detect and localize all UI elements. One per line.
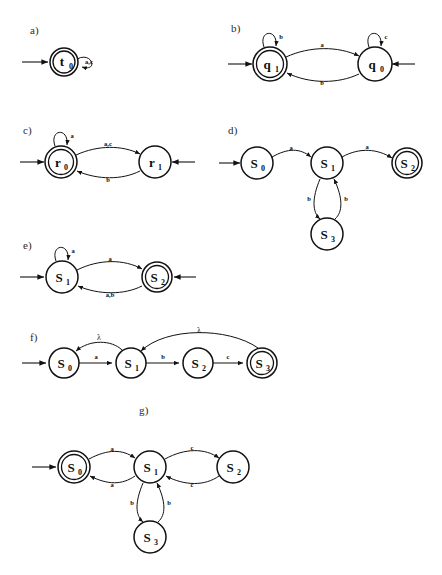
- panel-e: S 1 S 2 a a a,b: [20, 247, 196, 298]
- edge-e-s1-s2: [77, 262, 142, 270]
- state-g-s2-sub: 2: [237, 468, 241, 477]
- figure-sheet: t 0 a,c q 1 q 0 b c a b: [0, 0, 442, 575]
- edge-f-s1-s0-label: λ: [97, 333, 101, 342]
- edge-d-s0-s1-label: a: [289, 144, 293, 151]
- state-r0-label: r: [55, 155, 61, 170]
- edge-e-s1-s2-label: a: [108, 255, 112, 262]
- state-d-s0-label: S: [250, 156, 257, 171]
- state-g-s0-sub: 0: [78, 468, 82, 477]
- state-f-s0-sub: 0: [68, 364, 72, 373]
- edge-q0-q1-label: b: [320, 79, 324, 86]
- state-r1-outer: [139, 146, 171, 178]
- state-f-s0-label: S: [57, 356, 64, 371]
- self-loop-e-s1: [55, 247, 68, 261]
- state-d-s0-sub: 0: [261, 164, 265, 173]
- state-t0-label: t: [60, 54, 65, 69]
- state-e-s2-sub: 2: [161, 278, 165, 287]
- edge-g-s0-s1: [89, 451, 135, 459]
- self-loop-r0-label: a: [70, 132, 74, 139]
- panel-label-e: e): [23, 239, 32, 251]
- state-g-s1-label: S: [143, 460, 150, 475]
- edge-r0-r1: [76, 147, 140, 155]
- edge-d-s1-s3-label: b: [307, 195, 311, 202]
- state-f-s1-sub: 1: [135, 364, 139, 373]
- panel-label-g: g): [139, 404, 149, 416]
- edge-d-s1-s2: [342, 150, 392, 158]
- panel-label-b: b): [231, 22, 241, 34]
- edge-d-s1-s3: [314, 179, 320, 219]
- panel-label-f: f): [30, 331, 38, 343]
- edge-g-s1-s2: [165, 451, 219, 459]
- edge-g-s1-s3: [137, 483, 143, 522]
- state-d-s1-sub: 1: [331, 164, 335, 173]
- self-loop-r0: [54, 132, 67, 146]
- edge-f-s0-s1-label: a: [94, 353, 98, 360]
- state-q0-label: q: [368, 57, 376, 72]
- state-g-s2-label: S: [226, 460, 233, 475]
- panel-f: S 0 S 1 S 2 S 3 a b c λ λ: [22, 326, 277, 378]
- edge-f-s3-s1-label: λ: [197, 326, 201, 335]
- state-q0-sub: 0: [380, 65, 384, 74]
- panel-d: S 0 S 1 S 2 S 3 a a b b: [219, 143, 422, 250]
- state-d-s1-label: S: [320, 156, 327, 171]
- panel-b: q 1 q 0 b c a b: [228, 33, 415, 86]
- panel-a: t 0 a,c: [22, 48, 93, 76]
- edge-f-s1-s2-label: b: [161, 353, 165, 360]
- state-r1-label: r: [149, 155, 155, 170]
- edge-d-s1-s2-label: a: [365, 143, 369, 150]
- edge-r1-r0-label: b: [106, 176, 110, 183]
- edge-g-s3-s1: [157, 483, 164, 522]
- edge-g-s3-s1-label: b: [167, 499, 171, 506]
- state-f-s3-label: S: [255, 356, 262, 371]
- self-loop-q1-label: b: [279, 33, 283, 40]
- self-loop-e-s1-label: a: [71, 247, 75, 254]
- state-r0-sub: 0: [64, 163, 68, 172]
- self-loop-q1: [263, 33, 276, 47]
- state-d-s2-sub: 2: [411, 164, 415, 173]
- edge-g-s1-s2-label: c: [191, 444, 194, 451]
- edge-q1-q0-label: a: [320, 41, 324, 48]
- state-d-s3-sub: 3: [331, 235, 335, 244]
- self-loop-q0: [368, 33, 381, 47]
- state-q1-label: q: [263, 57, 271, 72]
- state-g-s0-label: S: [67, 460, 74, 475]
- edge-g-s2-s1-label: c: [191, 481, 194, 488]
- state-f-s3-sub: 3: [266, 364, 270, 373]
- panel-c: r 0 r 1 a a,c b: [20, 132, 195, 183]
- state-e-s1-label: S: [55, 270, 62, 285]
- state-f-s2-label: S: [191, 356, 198, 371]
- state-r1-sub: 1: [158, 163, 162, 172]
- edge-f-s1-s0-lambda: [76, 342, 122, 351]
- panel-label-c: c): [23, 124, 32, 136]
- edge-q1-q0: [286, 49, 359, 57]
- state-t0-sub: 0: [69, 62, 73, 71]
- state-d-s3-label: S: [320, 227, 327, 242]
- edge-d-s3-s1-label: b: [344, 195, 348, 202]
- edge-d-s3-s1: [334, 179, 341, 219]
- state-q1-sub: 1: [275, 65, 279, 74]
- panel-label-a: a): [30, 24, 39, 36]
- self-loop-q0-label: c: [385, 33, 388, 40]
- panel-label-d: d): [228, 124, 238, 136]
- automata-figure: t 0 a,c q 1 q 0 b c a b: [0, 0, 442, 575]
- edge-g-s1-s3-label: b: [130, 499, 134, 506]
- edge-e-s2-s1-label: a,b: [106, 291, 115, 298]
- state-g-s1-sub: 1: [154, 468, 158, 477]
- state-g-s3-sub: 3: [154, 538, 158, 547]
- state-e-s1-sub: 1: [66, 278, 70, 287]
- state-g-s3-label: S: [143, 530, 150, 545]
- state-e-s2-label: S: [150, 270, 157, 285]
- self-loop-t0-label: a,c: [85, 58, 93, 65]
- state-d-s2-label: S: [400, 156, 407, 171]
- state-f-s1-label: S: [124, 356, 131, 371]
- edge-r0-r1-label: a,c: [104, 140, 112, 147]
- state-f-s2-sub: 2: [202, 364, 206, 373]
- edge-f-s2-s3-label: c: [227, 353, 230, 360]
- edge-d-s0-s1: [272, 150, 311, 157]
- state-r0-outer: [45, 146, 77, 178]
- panel-g: S 0 S 1 S 2 S 3 a a c c b b: [32, 444, 249, 553]
